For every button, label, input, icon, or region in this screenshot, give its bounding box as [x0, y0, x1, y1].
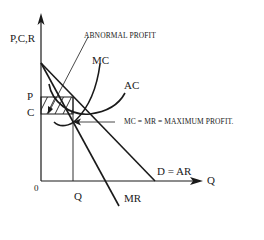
- equilibrium-label: MC = MR = MAXIMUM PROFIT.: [124, 118, 234, 126]
- x-axis: [41, 177, 203, 185]
- y-axis-label: P,C,R: [10, 33, 35, 44]
- x-axis-label: Q: [207, 175, 215, 186]
- abnormal-profit-pointer: [50, 37, 88, 110]
- demand-ar-label: D = AR: [157, 166, 191, 177]
- mr-label: MR: [124, 193, 141, 204]
- origin-label: 0: [34, 184, 39, 193]
- cost-level-label: C: [27, 107, 34, 118]
- ac-label: AC: [124, 80, 139, 91]
- mc-label: MC: [92, 55, 109, 66]
- abnormal-profit-label: ABNORMAL PROFIT: [84, 32, 156, 40]
- price-level-label: P: [27, 91, 33, 102]
- mr-curve: [41, 63, 119, 206]
- quantity-level-label: Q: [74, 191, 82, 202]
